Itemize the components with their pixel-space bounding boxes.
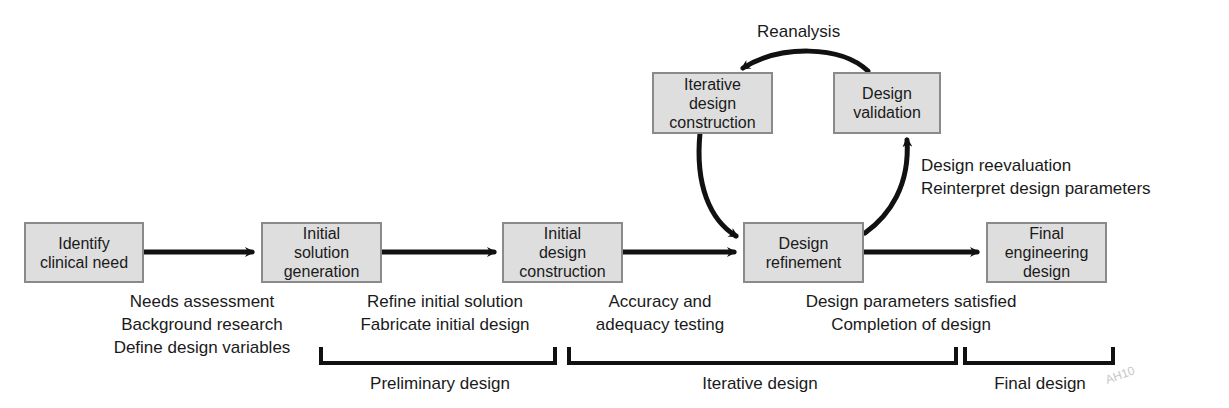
- node-iterative-design-construction: Iterative design construction: [652, 72, 773, 134]
- node-text: clinical need: [40, 253, 128, 272]
- node-text: Iterative: [684, 75, 741, 94]
- node-text: validation: [853, 103, 921, 122]
- node-text: generation: [284, 262, 360, 281]
- bracket-final: [965, 347, 1113, 363]
- node-identify-clinical-need: Identify clinical need: [24, 222, 144, 283]
- node-text: Initial: [303, 224, 340, 243]
- phase-iterative-design: Iterative design: [660, 372, 860, 395]
- node-text: construction: [669, 113, 755, 132]
- label-step2: Refine initial solution Fabricate initia…: [335, 290, 555, 336]
- label-line: Completion of design: [786, 313, 1036, 336]
- node-text: refinement: [766, 253, 842, 272]
- node-text: design: [1023, 262, 1070, 281]
- node-design-validation: Design validation: [833, 72, 941, 134]
- label-reanalysis: Reanalysis: [757, 20, 840, 43]
- node-text: Initial: [544, 224, 581, 243]
- node-text: Design: [862, 84, 912, 103]
- node-design-refinement: Design refinement: [743, 222, 864, 283]
- node-text: solution: [294, 243, 349, 262]
- label-line: Refine initial solution: [335, 290, 555, 313]
- label-line: Reinterpret design parameters: [921, 177, 1151, 200]
- label-line: Design parameters satisfied: [786, 290, 1036, 313]
- node-initial-design-construction: Initial design construction: [502, 222, 623, 283]
- bracket-preliminary: [321, 347, 555, 363]
- label-line: adequacy testing: [580, 313, 740, 336]
- label-line: Define design variables: [92, 336, 312, 359]
- label-step1: Needs assessment Background research Def…: [92, 290, 312, 359]
- label-line: Background research: [92, 313, 312, 336]
- label-line: Needs assessment: [92, 290, 312, 313]
- node-text: Identify: [58, 234, 110, 253]
- node-text: engineering: [1005, 243, 1089, 262]
- node-text: Final: [1029, 224, 1064, 243]
- label-step4: Design parameters satisfied Completion o…: [786, 290, 1036, 336]
- node-text: design: [539, 243, 586, 262]
- label-reevaluation: Design reevaluation Reinterpret design p…: [921, 154, 1151, 200]
- label-line: Fabricate initial design: [335, 313, 555, 336]
- label-line: Design reevaluation: [921, 154, 1151, 177]
- phase-brackets: [321, 347, 1113, 363]
- label-step3: Accuracy and adequacy testing: [580, 290, 740, 336]
- node-text: design: [689, 94, 736, 113]
- arrow-construction-to-refinement: [699, 133, 736, 236]
- phase-final-design: Final design: [975, 372, 1105, 395]
- phase-preliminary-design: Preliminary design: [330, 372, 550, 395]
- arrow-refinement-to-validation: [865, 140, 907, 233]
- node-text: construction: [519, 262, 605, 281]
- node-initial-solution-generation: Initial solution generation: [261, 222, 382, 283]
- arrow-reanalysis: [743, 51, 868, 71]
- label-line: Accuracy and: [580, 290, 740, 313]
- bracket-iterative: [569, 347, 956, 363]
- node-text: Design: [779, 234, 829, 253]
- node-final-engineering-design: Final engineering design: [986, 222, 1107, 283]
